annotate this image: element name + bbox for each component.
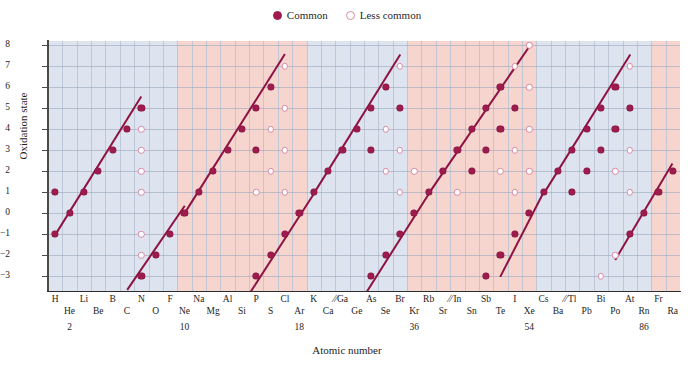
x-axis-label-Ca: Ca <box>323 306 334 316</box>
x-axis-label-P: P <box>254 294 259 304</box>
gridline-horizontal <box>48 66 680 67</box>
x-axis-label-Xe: Xe <box>524 306 535 316</box>
x-axis-label-S: S <box>268 306 273 316</box>
gridline-vertical <box>493 41 494 291</box>
x-axis-label-N: N <box>138 294 145 304</box>
x-axis-label-H: H <box>52 294 59 304</box>
x-axis-label-Li: Li <box>80 294 88 304</box>
less-common-marker-icon <box>346 11 355 20</box>
x-axis-label-Sb: Sb <box>481 294 491 304</box>
x-axis-label-Cl: Cl <box>281 294 290 304</box>
x-axis-label-Ar: Ar <box>294 306 304 316</box>
x-axis-label-Cs: Cs <box>539 294 549 304</box>
x-axis-label-Rb: Rb <box>423 294 434 304</box>
gridline-vertical <box>263 41 264 291</box>
x-axis-label-Be: Be <box>93 306 104 316</box>
y-tick-label: −2 <box>0 249 10 259</box>
gridline-vertical <box>565 41 566 291</box>
x-axis-label-Ra: Ra <box>668 306 679 316</box>
gridline-vertical <box>91 41 92 291</box>
y-tick-label: 8 <box>0 39 10 49</box>
gridline-vertical <box>364 41 365 291</box>
gridline-vertical <box>651 41 652 291</box>
x-axis-label-C: C <box>124 306 130 316</box>
x-axis-title: Atomic number <box>0 344 694 356</box>
gridline-vertical <box>393 41 394 291</box>
y-tick-mark <box>42 108 47 109</box>
x-axis-label-At: At <box>625 294 635 304</box>
gridline-vertical <box>220 41 221 291</box>
y-tick-mark <box>42 45 47 46</box>
x-axis-label-Bi: Bi <box>597 294 606 304</box>
gridline-vertical <box>407 41 408 291</box>
x-axis-label-Sr: Sr <box>439 306 447 316</box>
gridline-vertical <box>551 41 552 291</box>
y-axis-line <box>47 40 49 292</box>
y-tick-label: 6 <box>0 81 10 91</box>
gridline-vertical <box>62 41 63 291</box>
period-band-pink-3 <box>407 41 536 291</box>
y-tick-label: 0 <box>0 207 10 217</box>
gridline-vertical <box>278 41 279 291</box>
x-axis-label-Po: Po <box>610 306 620 316</box>
y-tick-mark <box>42 192 47 193</box>
gridline-vertical <box>608 41 609 291</box>
x-axis-label-Tl: Tl <box>568 294 576 304</box>
gridline-horizontal <box>48 45 680 46</box>
y-tick-label: 1 <box>0 186 10 196</box>
y-tick-mark <box>42 87 47 88</box>
x-axis-label-In: In <box>453 294 461 304</box>
x-axis-label-K: K <box>310 294 317 304</box>
gridline-vertical <box>134 41 135 291</box>
x-axis-label-Na: Na <box>193 294 204 304</box>
x-axis-label-He: He <box>64 306 75 316</box>
gridline-vertical <box>421 41 422 291</box>
x-axis-label-Fr: Fr <box>654 294 662 304</box>
atomic-number-mark-86: 86 <box>639 322 649 332</box>
gridline-vertical <box>666 41 667 291</box>
y-tick-label: 2 <box>0 165 10 175</box>
x-axis-label-O: O <box>152 306 159 316</box>
atomic-number-mark-54: 54 <box>524 322 534 332</box>
y-tick-mark <box>42 213 47 214</box>
gridline-vertical <box>522 41 523 291</box>
gridline-vertical <box>594 41 595 291</box>
x-axis-label-Ba: Ba <box>553 306 564 316</box>
gridline-vertical <box>177 41 178 291</box>
atomic-number-mark-18: 18 <box>295 322 305 332</box>
x-axis-label-As: As <box>366 294 377 304</box>
legend-item-less-common: Less common <box>346 9 421 21</box>
gridline-vertical <box>77 41 78 291</box>
x-axis-label-Si: Si <box>238 306 246 316</box>
x-axis-label-Pb: Pb <box>582 306 592 316</box>
x-axis-label-Al: Al <box>223 294 233 304</box>
gridline-vertical <box>465 41 466 291</box>
y-tick-label: −1 <box>0 228 10 238</box>
gridline-vertical <box>623 41 624 291</box>
gridline-vertical <box>335 41 336 291</box>
legend-label-less-common: Less common <box>360 9 421 21</box>
x-axis-label-Ge: Ge <box>351 306 362 316</box>
gridline-vertical <box>450 41 451 291</box>
y-tick-mark <box>42 171 47 172</box>
x-axis-label-I: I <box>513 294 516 304</box>
gridline-vertical <box>105 41 106 291</box>
gridline-vertical <box>579 41 580 291</box>
x-axis-label-Ga: Ga <box>337 294 348 304</box>
x-axis-label-Ne: Ne <box>179 306 190 316</box>
gridline-vertical <box>536 41 537 291</box>
legend-item-common: Common <box>273 9 328 21</box>
gridline-vertical <box>378 41 379 291</box>
legend-label-common: Common <box>287 9 328 21</box>
gridline-vertical <box>436 41 437 291</box>
chart-root: Common Less common 876543210−1−2−3 Oxida… <box>0 0 694 372</box>
atomic-number-mark-10: 10 <box>180 322 190 332</box>
gridline-vertical <box>163 41 164 291</box>
gridline-vertical <box>249 41 250 291</box>
period-band-pink-1 <box>177 41 306 291</box>
gridline-horizontal <box>48 213 680 214</box>
y-tick-label: 7 <box>0 60 10 70</box>
chart-legend: Common Less common <box>0 9 694 21</box>
gridline-vertical <box>292 41 293 291</box>
gridline-vertical <box>192 41 193 291</box>
